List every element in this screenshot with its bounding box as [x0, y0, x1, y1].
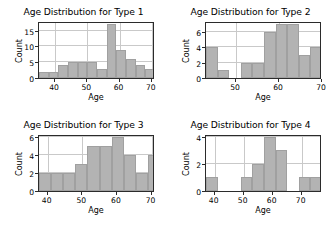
plot-area: Count Age 02440506070	[205, 135, 321, 192]
x-axis-tick-mark	[81, 192, 82, 195]
axes	[205, 22, 321, 79]
histogram-bar	[87, 62, 97, 78]
histogram-bar	[264, 137, 276, 191]
histogram-bar	[97, 69, 107, 79]
x-axis-tick-mark	[243, 192, 244, 195]
x-axis-tick-mark	[301, 192, 302, 195]
histogram-bar	[241, 177, 253, 191]
y-axis-tick-mark	[202, 78, 205, 79]
x-axis-tick-label: 60	[267, 196, 277, 205]
histogram-bar	[252, 63, 264, 78]
x-axis-label: Age	[205, 93, 321, 102]
x-axis-tick-label: 60	[273, 83, 283, 92]
y-axis-tick-mark	[35, 137, 38, 138]
histogram-bar	[218, 70, 230, 78]
y-axis-tick-label: 6	[196, 28, 201, 37]
x-axis-tick-label: 60	[111, 196, 121, 205]
gridline-horizontal	[206, 136, 320, 137]
histogram-bar	[136, 65, 146, 78]
histogram-bar	[206, 47, 218, 78]
histogram-bar	[58, 65, 68, 78]
chart-title: Age Distribution for Type 3	[0, 119, 167, 130]
y-axis-tick-label: 6	[29, 133, 34, 142]
gridline-vertical	[55, 23, 56, 78]
x-axis-tick-mark	[278, 79, 279, 82]
axes	[38, 22, 154, 79]
histogram-bar	[107, 24, 117, 78]
y-axis-tick-label: 0	[29, 75, 34, 84]
axes	[205, 135, 321, 192]
histogram-bar	[124, 155, 136, 191]
y-axis-tick-mark	[202, 191, 205, 192]
x-axis-tick-mark	[272, 192, 273, 195]
plot-area: Count Age 0246506070	[205, 22, 321, 79]
histogram-bar	[299, 177, 311, 191]
histogram-bar	[299, 55, 311, 78]
y-axis-tick-mark	[202, 137, 205, 138]
gridline-horizontal	[39, 136, 153, 137]
histogram-bar	[252, 164, 264, 191]
histogram-bar	[310, 47, 321, 78]
gridline-vertical	[236, 23, 237, 78]
x-axis-tick-label: 50	[238, 196, 248, 205]
histogram-bar	[87, 146, 99, 191]
histogram-bar	[51, 173, 63, 191]
axes	[38, 135, 154, 192]
chart-panel-type-1: Age Distribution for Type 1 Count Age 05…	[0, 0, 167, 113]
histogram-bar	[241, 63, 253, 78]
gridline-horizontal	[206, 46, 320, 47]
y-axis-tick-mark	[35, 46, 38, 47]
y-axis-tick-label: 4	[29, 151, 34, 160]
y-axis-tick-mark	[202, 164, 205, 165]
histogram-bar	[78, 62, 88, 78]
y-axis-tick-mark	[202, 47, 205, 48]
y-axis-tick-label: 5	[29, 59, 34, 68]
plot-area: Count Age 024640506070	[38, 135, 154, 192]
chart-title: Age Distribution for Type 2	[167, 6, 334, 17]
y-axis-tick-label: 0	[196, 75, 201, 84]
x-axis-tick-mark	[151, 79, 152, 82]
histogram-bar	[112, 137, 124, 191]
x-axis-tick-mark	[214, 192, 215, 195]
y-axis-tick-label: 15	[24, 27, 34, 36]
x-axis-tick-label: 50	[230, 83, 240, 92]
x-axis-tick-mark	[151, 192, 152, 195]
y-axis-tick-mark	[35, 173, 38, 174]
x-axis-tick-label: 40	[42, 196, 52, 205]
y-axis-tick-label: 4	[196, 44, 201, 53]
histogram-bar	[75, 164, 87, 191]
histogram-bar	[276, 150, 288, 191]
x-axis-label: Age	[205, 206, 321, 215]
y-axis-label: Count	[15, 152, 24, 176]
y-axis-tick-label: 2	[29, 169, 34, 178]
x-axis-tick-label: 50	[76, 196, 86, 205]
histogram-bar	[116, 50, 126, 79]
histogram-bar	[310, 177, 321, 191]
y-axis-tick-label: 10	[24, 43, 34, 52]
y-axis-tick-mark	[35, 155, 38, 156]
histogram-bar	[39, 173, 51, 191]
histogram-bar	[206, 177, 218, 191]
x-axis-tick-label: 70	[146, 196, 156, 205]
x-axis-label: Age	[38, 206, 154, 215]
figure-grid: Age Distribution for Type 1 Count Age 05…	[0, 0, 334, 227]
y-axis-tick-label: 2	[196, 59, 201, 68]
chart-panel-type-4: Age Distribution for Type 4 Count Age 02…	[167, 113, 334, 227]
histogram-bar	[287, 24, 299, 78]
gridline-horizontal	[206, 31, 320, 32]
x-axis-tick-mark	[116, 192, 117, 195]
chart-panel-type-3: Age Distribution for Type 3 Count Age 02…	[0, 113, 167, 227]
histogram-bar	[63, 173, 75, 191]
y-axis-tick-label: 2	[196, 160, 201, 169]
y-axis-tick-mark	[202, 63, 205, 64]
x-axis-label: Age	[38, 93, 154, 102]
y-axis-tick-mark	[35, 62, 38, 63]
y-axis-label: Count	[182, 152, 191, 176]
histogram-bar	[100, 146, 112, 191]
chart-title: Age Distribution for Type 4	[167, 119, 334, 130]
x-axis-tick-label: 70	[146, 83, 156, 92]
y-axis-tick-label: 0	[196, 188, 201, 197]
y-axis-label: Count	[15, 39, 24, 63]
x-axis-tick-mark	[86, 79, 87, 82]
histogram-bar	[49, 72, 59, 78]
